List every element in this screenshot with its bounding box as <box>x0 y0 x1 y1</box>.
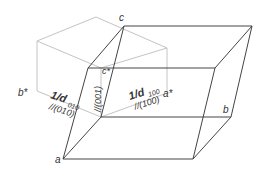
d100-label: 1/d 100 //(100) <box>127 81 163 112</box>
svg-text://(001): //(001) <box>93 86 103 113</box>
label-a-star: a* <box>163 88 174 99</box>
label-b-star: b* <box>18 87 29 98</box>
label-b: b <box>223 104 229 115</box>
label-a: a <box>55 154 61 165</box>
d010-label: 1/d 010 //(010) <box>46 88 82 119</box>
d001-label: //(001) <box>93 86 103 113</box>
label-c-star: c* <box>102 66 111 76</box>
lattice-diagram: c a b a* b* c* 1/d 010 //(010) 1/d 100 /… <box>0 0 267 176</box>
label-c: c <box>119 12 124 23</box>
